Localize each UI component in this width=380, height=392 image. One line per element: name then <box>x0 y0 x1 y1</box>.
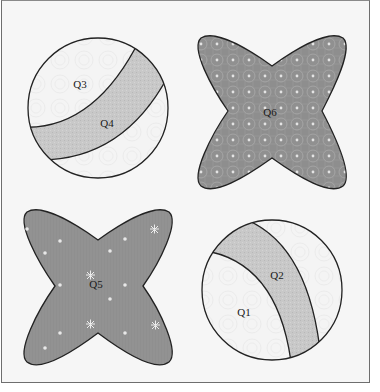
label-q6: Q6 <box>263 106 277 118</box>
label-q1: Q1 <box>237 306 250 318</box>
circle-top-left: Q3 Q4 <box>20 35 175 178</box>
figure-canvas: Q3 Q4 Q6 <box>0 0 380 392</box>
x-shape-bottom-left: Q5 <box>24 210 172 365</box>
figure-svg: Q3 Q4 Q6 <box>0 0 380 392</box>
circle-bottom-right: Q2 Q1 <box>200 215 342 370</box>
label-q4: Q4 <box>100 117 114 129</box>
label-q3: Q3 <box>73 78 87 90</box>
label-q2: Q2 <box>270 269 283 281</box>
label-q5: Q5 <box>89 278 103 290</box>
x-shape-top-right: Q6 <box>198 36 346 189</box>
